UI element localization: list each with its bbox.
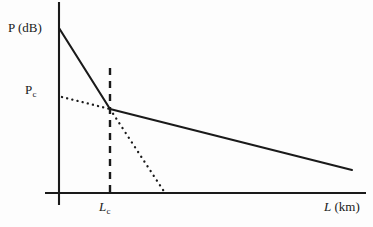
y-axis-label: P (dB)	[8, 21, 42, 34]
critical-power-subscript: c	[32, 89, 36, 99]
series-solid-shallow-segment	[110, 109, 352, 170]
x-axis-unit: (km)	[334, 199, 359, 214]
critical-power-label: Pc	[25, 83, 37, 99]
plot-area	[0, 0, 373, 227]
critical-length-label: Lc	[99, 200, 111, 216]
x-axis-label: L (km)	[324, 200, 360, 213]
critical-length-subscript: c	[106, 206, 110, 216]
figure-canvas: P (dB) Pc Lc L (km)	[0, 0, 373, 227]
series-solid-steep-segment	[59, 28, 110, 109]
x-axis-symbol: L	[324, 199, 331, 214]
